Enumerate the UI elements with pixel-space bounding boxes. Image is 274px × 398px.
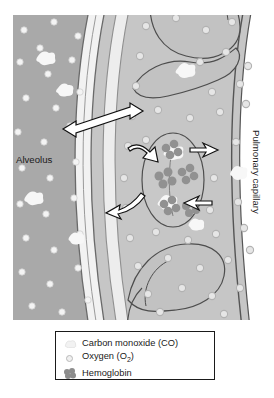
- legend-box: Carbon monoxide (CO) Oxygen (O2) Hemoglo…: [55, 331, 215, 380]
- legend-label-oxygen-pre: Oxygen (O: [82, 351, 127, 361]
- legend-label-oxygen-post: ): [131, 351, 134, 361]
- diagram-body: Alveolus: [0, 0, 274, 345]
- legend-item-carbon-monoxide: Carbon monoxide (CO): [62, 336, 214, 350]
- pulmonary-capillary-label: Pulmonary capillary: [251, 130, 262, 214]
- legend-label-oxygen: Oxygen (O2): [82, 350, 134, 366]
- legend-label-hemoglobin: Hemoglobin: [82, 367, 132, 380]
- hemoglobin-icon: [62, 367, 82, 380]
- alveolus-label: Alveolus: [16, 154, 52, 165]
- carbon-monoxide-icon: [62, 337, 82, 350]
- legend-label-carbon-monoxide: Carbon monoxide (CO): [82, 337, 178, 350]
- oxygen-icon: [62, 352, 82, 365]
- legend-item-oxygen: Oxygen (O2): [62, 351, 214, 365]
- legend-item-hemoglobin: Hemoglobin: [62, 366, 214, 380]
